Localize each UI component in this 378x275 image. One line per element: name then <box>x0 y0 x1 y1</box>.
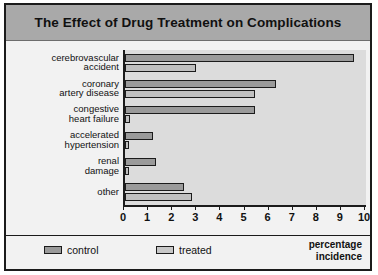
x-tick-label: 10 <box>358 211 370 223</box>
bar-treated-coronary-artery-disease <box>125 90 255 98</box>
bar-control-congestive-heart-failure <box>125 106 255 114</box>
bar-control-coronary-artery-disease <box>125 80 276 88</box>
plot-area <box>123 50 366 205</box>
x-tick <box>123 205 124 210</box>
x-tick <box>219 205 220 210</box>
x-tick-label: 3 <box>192 211 198 223</box>
x-tick-label: 7 <box>289 211 295 223</box>
x-tick-label: 0 <box>120 211 126 223</box>
bar-treated-other <box>125 193 192 201</box>
x-tick <box>316 205 317 210</box>
legend-swatch-treated <box>156 246 174 254</box>
x-tick-label: 8 <box>313 211 319 223</box>
x-tick-label: 4 <box>216 211 222 223</box>
x-tick <box>364 205 365 210</box>
legend-label: control <box>67 244 99 256</box>
legend-label: treated <box>179 244 212 256</box>
category-label: hypertension <box>65 140 119 151</box>
x-tick-label: 6 <box>265 211 271 223</box>
bar-control-cerebrovascular-accident <box>125 54 354 62</box>
category-label: accident <box>84 62 119 73</box>
x-axis-title: percentage incidence <box>309 239 362 263</box>
category-label: damage <box>85 166 119 177</box>
x-tick <box>171 205 172 210</box>
bar-treated-accelerated-hypertension <box>125 141 129 149</box>
x-tick-label: 2 <box>168 211 174 223</box>
chart-figure: The Effect of Drug Treatment on Complica… <box>4 3 372 271</box>
x-tick <box>268 205 269 210</box>
bar-treated-renal-damage <box>125 167 129 175</box>
bar-treated-congestive-heart-failure <box>125 115 130 123</box>
bar-control-renal-damage <box>125 158 156 166</box>
category-label: other <box>97 187 119 198</box>
x-axis-line <box>123 205 366 207</box>
legend-swatch-control <box>44 246 62 254</box>
bar-treated-cerebrovascular-accident <box>125 64 196 72</box>
bar-control-other <box>125 183 184 191</box>
category-label: artery disease <box>59 88 119 99</box>
x-tick <box>244 205 245 210</box>
x-tick <box>195 205 196 210</box>
page-title: The Effect of Drug Treatment on Complica… <box>35 15 342 30</box>
legend-item-treated: treated <box>156 244 212 256</box>
x-tick-label: 1 <box>144 211 150 223</box>
axis-title-line-2: incidence <box>309 251 362 263</box>
x-tick-label: 5 <box>240 211 246 223</box>
x-tick <box>340 205 341 210</box>
legend: controltreated percentage incidence <box>6 235 370 269</box>
plot-frame: cerebrovascularaccidentcoronaryartery di… <box>16 50 360 230</box>
bar-control-accelerated-hypertension <box>125 132 153 140</box>
legend-item-control: control <box>44 244 99 256</box>
category-axis-labels: cerebrovascularaccidentcoronaryartery di… <box>16 50 119 205</box>
x-tick <box>147 205 148 210</box>
category-label: heart failure <box>69 114 119 125</box>
x-tick-label: 9 <box>337 211 343 223</box>
title-band: The Effect of Drug Treatment on Complica… <box>6 5 370 41</box>
axis-title-line-1: percentage <box>309 239 362 251</box>
x-tick <box>292 205 293 210</box>
